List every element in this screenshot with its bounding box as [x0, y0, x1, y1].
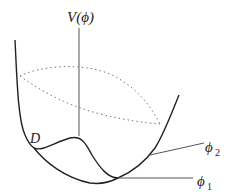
phi2-leader-line — [150, 143, 204, 155]
dotted-rim-upper — [20, 67, 160, 124]
phi2-label: ϕ — [205, 139, 213, 155]
phi2-subscript: 2 — [215, 147, 220, 158]
right-wall-curve — [118, 95, 179, 178]
potential-label: V(ϕ) — [67, 9, 94, 26]
potential-diagram: V(ϕ) D ϕ 2 ϕ 1 — [0, 0, 234, 195]
bump-curve — [34, 137, 118, 178]
point-d-label: D — [29, 131, 40, 146]
phi1-label: ϕ — [197, 173, 205, 189]
trough-curve — [34, 148, 118, 184]
dotted-rim-lower — [20, 76, 160, 124]
phi1-subscript: 1 — [207, 181, 212, 192]
